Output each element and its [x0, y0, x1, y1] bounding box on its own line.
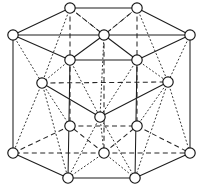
dashed-bottom-center-to-back-right — [104, 126, 137, 153]
dotted-top-center-to-mid-front — [100, 35, 104, 117]
dotted-top-left-to-mid-left — [13, 35, 42, 83]
atom-bottom-back-right — [132, 121, 142, 131]
solid-bottom-left-to-front-left — [13, 153, 68, 178]
dotted-top-front-right-to-mid-front — [100, 60, 137, 117]
hcp-structure-svg — [0, 0, 203, 193]
dotted-mid-right-to-bottom-right — [168, 82, 190, 153]
solid-top-center-to-front-right — [104, 35, 137, 60]
atom-bottom-front-left — [63, 173, 73, 183]
atom-top-back-right — [132, 3, 142, 13]
dotted-mid-left-to-bottom-left — [13, 83, 42, 153]
solid-top-back-right-to-right — [137, 8, 190, 35]
atom-top-right — [185, 30, 195, 40]
atom-top-face-center — [99, 30, 109, 40]
atom-midplane-left — [37, 78, 47, 88]
solid-bottom-front-right-to-right — [135, 153, 190, 178]
dashed-top-back-right-to-center — [104, 8, 137, 35]
dashed-bottom-left-to-back-left — [13, 126, 70, 153]
atom-bottom-face-center — [99, 148, 109, 158]
dotted-bottom-center-to-front-left — [68, 153, 104, 178]
solid-top-right-to-front-right — [137, 35, 190, 60]
hcp-unit-cell-figure — [0, 0, 203, 193]
atom-layer-midplane — [37, 77, 173, 122]
atom-bottom-front-right — [130, 173, 140, 183]
dashed-bottom-back-right-to-right — [137, 126, 190, 153]
solid-top-front-left-to-left — [13, 35, 70, 60]
atom-top-left — [8, 30, 18, 40]
atom-layer-top-basal-plane — [8, 3, 195, 65]
dashed-top-back-left-to-center — [70, 8, 104, 35]
atom-top-back-left — [65, 3, 75, 13]
atom-midplane-front — [95, 112, 105, 122]
solid-top-left-to-back-left — [13, 8, 70, 35]
atom-bottom-back-left — [65, 121, 75, 131]
dotted-mid-right-to-bottom-back-right — [137, 82, 168, 126]
atom-midplane-right — [163, 77, 173, 87]
atom-bottom-right — [185, 148, 195, 158]
dashed-midplane-left-to-right — [42, 82, 168, 83]
atom-top-front-right — [132, 55, 142, 65]
dotted-bottom-center-to-front-right — [104, 153, 135, 178]
dashed-bottom-center-to-back-left — [70, 126, 104, 153]
atom-bottom-left — [8, 148, 18, 158]
atom-layer-bottom-basal-plane — [8, 121, 195, 183]
atom-top-front-left — [65, 55, 75, 65]
dotted-mid-left-to-bottom-front-left — [42, 83, 68, 178]
dotted-mid-left-to-bottom-back-left — [42, 83, 70, 126]
dotted-top-right-to-mid-right — [168, 35, 190, 82]
solid-top-center-to-front-left — [70, 35, 104, 60]
